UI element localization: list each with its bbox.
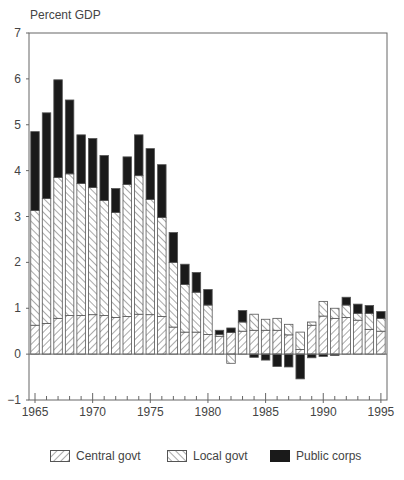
bar-1978 [181,264,190,354]
bar-segment [204,305,213,334]
bar-segment [354,304,363,313]
bar-segment [307,322,316,325]
bar-segment [296,332,305,349]
bar-segment [100,316,109,355]
bar-segment [146,200,155,315]
bar-1983 [238,311,247,355]
bar-segment [261,354,270,360]
hatch-backward-swatch-icon [167,450,187,462]
bar-segment [158,217,167,316]
bar-segment [377,318,386,331]
bar-segment [215,330,224,334]
legend-label: Central govt [76,449,141,463]
bar-segment [146,315,155,354]
bar-segment [250,314,259,330]
bar-1975 [146,149,155,355]
bar-1965 [31,132,40,354]
bar-segment [319,316,328,354]
bar-segment [31,132,40,211]
bar-segment [54,80,63,178]
bar-segment [146,149,155,200]
y-tick-label: 3 [14,210,21,224]
y-tick-label: 5 [14,118,21,132]
bar-segment [88,139,97,188]
bar-segment [365,329,374,354]
hatch-forward-swatch-icon [50,450,70,462]
bar-segment [181,284,190,332]
bar-1971 [100,155,109,354]
bar-1993 [354,304,363,354]
bar-1969 [77,135,86,354]
bar-segment [158,165,167,218]
bar-segment [31,211,40,326]
bar-segment [307,354,316,358]
bar-segment [319,301,328,316]
bar-segment [273,330,282,354]
bar-segment [181,264,190,284]
bar-1987 [284,324,293,367]
bar-1986 [273,318,282,366]
bar-1980 [204,289,213,354]
bar-1990 [319,301,328,356]
y-tick-label: 2 [14,255,21,269]
bar-segment [261,319,270,330]
bar-segment [135,176,144,315]
bar-segment [296,354,305,379]
bar-1988 [296,332,305,379]
y-tick-label: 6 [14,72,21,86]
bar-segment [65,100,74,174]
bar-segment [377,331,386,354]
y-tick-label: 7 [14,26,21,40]
bar-segment [354,313,363,320]
y-tick-label: −1 [7,393,21,407]
bar-segment [123,184,131,316]
bar-segment [238,311,247,322]
bar-segment [192,272,201,292]
bar-segment [204,334,213,354]
legend-item-central-govt: Central govt [50,449,141,463]
bar-segment [111,212,120,317]
bar-segment [342,297,351,305]
bar-segment [169,327,178,354]
bar-segment [342,305,351,317]
bar-segment [354,320,363,354]
bar-segment [135,135,144,176]
bar-1977 [169,233,178,355]
bar-1966 [42,113,51,354]
bar-segment [250,330,259,354]
x-tick-label: 1980 [195,405,222,419]
bar-segment [331,318,340,354]
bar-segment [307,325,316,354]
bar-segment [65,316,74,355]
bar-segment [123,157,131,185]
bar-segment [342,317,351,354]
bar-segment [54,178,63,319]
bar-segment [204,289,213,305]
bar-segment [377,311,386,318]
bar-1989 [307,322,316,358]
bar-1981 [215,330,224,354]
bar-1992 [342,297,351,354]
bar-segment [123,317,131,355]
bar-segment [331,308,340,318]
bar-1973 [123,157,131,354]
bar-segment [77,135,86,184]
bar-1972 [111,189,120,355]
bar-1982 [227,328,236,363]
bar-1967 [54,80,63,354]
bar-segment [100,200,109,315]
bar-segment [284,335,293,354]
bar-segment [227,333,236,355]
bar-segment [135,314,144,354]
bar-segment [111,317,120,354]
bar-segment [31,325,40,354]
bar-segment [296,350,305,355]
bar-segment [88,188,97,315]
bar-segment [238,331,247,354]
legend-label: Local govt [193,449,248,463]
bar-1979 [192,272,201,354]
x-tick-label: 1985 [252,405,279,419]
bar-segment [77,183,86,315]
stacked-bar-chart: −1012345671965197019751980198519901995 [0,0,404,440]
y-tick-label: 4 [14,164,21,178]
